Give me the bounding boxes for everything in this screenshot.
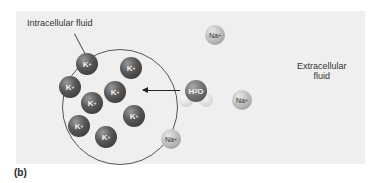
potassium-ion: K+ [59,76,81,98]
sodium-ion: Na+ [205,25,225,45]
sodium-ion: Na+ [161,129,181,149]
potassium-ion: K+ [120,57,142,79]
water-influx-arrow [143,90,180,91]
potassium-ion: K+ [76,53,98,75]
intracellular-leader-line [74,34,86,56]
potassium-ion: K+ [68,115,90,137]
extracellular-label-line1: Extracellular [297,61,347,71]
potassium-ion: K+ [123,105,145,127]
water-molecule: H2O [179,80,213,108]
extracellular-fluid-label: Extracellular fluid [297,61,347,82]
sodium-ion: Na+ [232,90,252,110]
potassium-ion: K+ [104,81,126,103]
intracellular-fluid-label: Intracellular fluid [27,18,93,28]
oxygen-atom: H2O [185,80,207,102]
diagram-panel: Intracellular fluid K+ K+ K+ K+ K+ K+ K+… [16,11,365,164]
potassium-ion: K+ [81,92,103,114]
figure-caption: (b) [14,167,27,178]
potassium-ion: K+ [95,126,117,148]
extracellular-label-line2: fluid [297,71,347,81]
